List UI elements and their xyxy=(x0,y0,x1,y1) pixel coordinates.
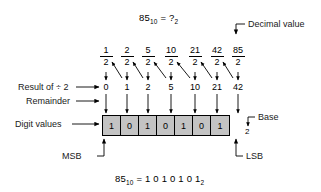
quotient-4: 5 xyxy=(160,82,182,92)
bottom-equation-lhs: 85 xyxy=(115,173,126,184)
fraction-5: 21 2 xyxy=(184,46,206,67)
top-equation-rhs-subscript: 2 xyxy=(175,18,179,25)
msb-leader-elbow xyxy=(97,150,104,156)
quotient-2: 1 xyxy=(116,82,138,92)
digit-cell-6: 0 xyxy=(193,116,211,135)
digit-cell-7: 1 xyxy=(211,116,229,135)
fraction-7: 85 2 xyxy=(227,46,249,67)
digit-cell-3: 1 xyxy=(139,116,157,135)
decimal-value-label: Decimal value xyxy=(248,19,305,29)
fraction-7-numerator: 85 xyxy=(227,46,249,56)
fraction-3-denominator: 2 xyxy=(137,58,159,68)
quotient-7: 42 xyxy=(227,82,249,92)
bottom-equation: 8510 = 1 0 1 0 1 0 12 xyxy=(115,173,204,188)
bottom-equation-lhs-subscript: 10 xyxy=(126,179,134,186)
top-equation-operator: = xyxy=(160,12,166,23)
fraction-5-numerator: 21 xyxy=(184,46,206,56)
fraction-6: 42 2 xyxy=(206,46,228,67)
bottom-equation-rhs: 1 0 1 0 1 0 1 xyxy=(145,173,200,184)
fraction-5-denominator: 2 xyxy=(184,58,206,68)
digit-values-label: Digit values xyxy=(15,119,62,129)
result-of-division-label: Result of ÷ 2 xyxy=(18,82,68,92)
digit-cell-4: 0 xyxy=(157,116,175,135)
fraction-7-denominator: 2 xyxy=(227,58,249,68)
digit-cell-5: 1 xyxy=(175,116,193,135)
fraction-6-denominator: 2 xyxy=(206,58,228,68)
fraction-1-numerator: 1 xyxy=(95,46,117,56)
top-equation: 8510 = ?2 xyxy=(139,12,178,27)
digit-cell-1: 1 xyxy=(103,116,121,135)
base-label: Base xyxy=(258,112,279,122)
quotient-5: 10 xyxy=(184,82,206,92)
lsb-label: LSB xyxy=(246,151,263,161)
msb-label: MSB xyxy=(62,151,82,161)
quotient-3: 2 xyxy=(137,82,159,92)
quotient-6: 21 xyxy=(206,82,228,92)
fraction-1: 1 2 xyxy=(95,46,117,67)
base-leader xyxy=(248,117,255,126)
fraction-2-numerator: 2 xyxy=(116,46,138,56)
fraction-2-denominator: 2 xyxy=(116,58,138,68)
fraction-6-numerator: 42 xyxy=(206,46,228,56)
decimal-value-leader xyxy=(236,24,245,34)
fraction-4-denominator: 2 xyxy=(160,58,182,68)
quotient-1: 0 xyxy=(95,82,117,92)
bottom-equation-operator: = xyxy=(136,173,142,184)
fraction-1-denominator: 2 xyxy=(95,58,117,68)
binary-digit-row: 1 0 1 0 1 0 1 xyxy=(102,115,230,136)
lsb-leader-elbow xyxy=(236,150,243,156)
fraction-3-numerator: 5 xyxy=(137,46,159,56)
bottom-equation-rhs-subscript: 2 xyxy=(200,179,204,186)
remainder-label: Remainder xyxy=(26,96,70,106)
digit-cell-2: 0 xyxy=(121,116,139,135)
fraction-2: 2 2 xyxy=(116,46,138,67)
top-equation-lhs: 85 xyxy=(139,12,150,23)
base-value: 2 xyxy=(245,127,249,136)
fraction-3: 5 2 xyxy=(137,46,159,67)
binary-conversion-diagram: 8510 = ?2 Decimal value 1 2 2 2 5 2 10 2… xyxy=(0,0,321,192)
top-equation-lhs-subscript: 10 xyxy=(150,18,158,25)
fraction-4-numerator: 10 xyxy=(160,46,182,56)
fraction-4: 10 2 xyxy=(160,46,182,67)
